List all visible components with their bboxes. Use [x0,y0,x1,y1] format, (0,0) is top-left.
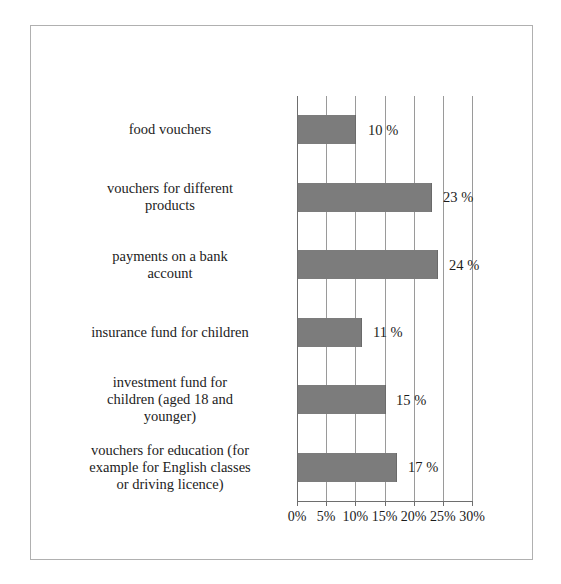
bar-value-label: 17 % [408,459,438,476]
bar-container: 15 % [298,366,473,434]
page-root: food vouchers 10 % vouchers for differen… [0,0,561,584]
bar-container: 23 % [298,164,473,232]
bar-payments-bank-account[interactable] [298,250,438,279]
category-label: vouchers for different products [51,164,289,232]
x-axis-label-5: 5% [317,509,336,525]
bar-value-label: 15 % [396,391,426,408]
bar-value-label: 23 % [443,189,473,206]
category-label: payments on a bank account [51,231,289,299]
category-label: insurance fund for children [51,299,289,367]
x-axis-label-0: 0% [288,509,307,525]
bar-row: vouchers for different products 23 % [31,164,532,232]
figure-frame: food vouchers 10 % vouchers for differen… [30,25,533,560]
bar-row: investment fund for children (aged 18 an… [31,366,532,434]
bar-vouchers-different-products[interactable] [298,183,432,212]
bar-value-label: 11 % [373,324,403,341]
bar-food-vouchers[interactable] [298,115,356,144]
bar-chart: food vouchers 10 % vouchers for differen… [31,26,532,559]
category-label: food vouchers [51,96,289,164]
bar-row: vouchers for education (for example for … [31,434,532,502]
bar-row: food vouchers 10 % [31,96,532,164]
bar-investment-fund-children[interactable] [298,385,386,414]
x-axis-tick-labels: 0% 5% 10% 15% 20% 25% 30% [297,509,472,529]
bar-container: 11 % [298,299,473,367]
x-axis-line [297,501,473,502]
bar-container: 24 % [298,231,473,299]
bar-container: 17 % [298,434,473,502]
category-label: investment fund for children (aged 18 an… [51,366,289,434]
x-axis-label-10: 10% [342,509,368,525]
bar-insurance-fund-children[interactable] [298,318,362,347]
bar-value-label: 24 % [449,256,479,273]
x-axis-label-30: 30% [459,509,485,525]
bar-row: insurance fund for children 11 % [31,299,532,367]
category-label: vouchers for education (for example for … [51,434,289,502]
x-axis-label-25: 25% [430,509,456,525]
x-axis-label-20: 20% [401,509,427,525]
bar-container: 10 % [298,96,473,164]
bar-value-label: 10 % [368,121,398,138]
bar-row: payments on a bank account 24 % [31,231,532,299]
x-axis-label-15: 15% [372,509,398,525]
bar-vouchers-education[interactable] [298,453,397,482]
